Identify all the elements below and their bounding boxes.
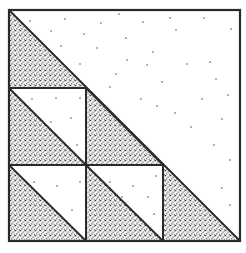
figure-caption [10, 246, 240, 253]
quilt-block-figure [0, 0, 246, 253]
